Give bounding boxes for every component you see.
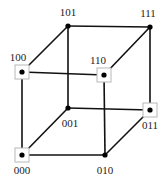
vertex-label: 011 (142, 119, 158, 131)
vertex-dot (101, 72, 106, 77)
edge-101-111 (68, 26, 150, 27)
vertex-label: 110 (90, 54, 107, 66)
vertex-label: 100 (10, 51, 27, 63)
vertex-dot (19, 69, 24, 74)
vertex-dot (147, 24, 152, 29)
vertex-dot (19, 152, 24, 157)
vertex-000: 000 (14, 148, 31, 176)
vertex-010: 010 (97, 152, 114, 176)
vertex-label: 001 (62, 117, 79, 129)
vertex-label: 101 (60, 6, 77, 18)
vertex-110: 110 (90, 54, 111, 82)
edge-001-011 (68, 108, 150, 110)
vertex-dot (102, 152, 107, 157)
vertex-label: 000 (14, 164, 31, 176)
hypercube-diagram: 000001010011100101110111 (0, 0, 165, 185)
nodes-group: 000001010011100101110111 (10, 6, 158, 176)
edge-010-110 (104, 75, 105, 155)
vertex-dot (147, 107, 152, 112)
vertex-100: 100 (10, 51, 29, 79)
vertex-label: 010 (97, 164, 114, 176)
vertex-011: 011 (142, 103, 158, 131)
vertex-101: 101 (60, 6, 77, 29)
vertex-label: 111 (140, 7, 156, 19)
edges-group (22, 26, 150, 155)
vertex-dot (65, 23, 70, 28)
edge-100-110 (22, 72, 104, 75)
vertex-dot (65, 105, 70, 110)
